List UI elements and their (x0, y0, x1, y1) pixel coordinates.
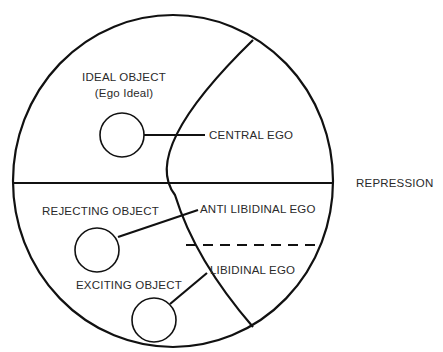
ideal-object-circle (100, 113, 144, 157)
exciting-object-label: EXCITING OBJECT (76, 279, 182, 291)
endopsychic-structure-diagram: IDEAL OBJECT (Ego Ideal) CENTRAL EGO REJ… (0, 0, 443, 352)
repression-label: REPRESSION (356, 177, 433, 189)
outer-psyche-circle (13, 15, 333, 347)
rejecting-object-label: REJECTING OBJECT (42, 205, 159, 217)
ideal-object-label: IDEAL OBJECT (82, 71, 166, 83)
exciting-object-circle (132, 298, 176, 342)
rejecting-object-circle (75, 228, 119, 272)
ego-ideal-sublabel: (Ego Ideal) (95, 87, 153, 99)
libidinal-ego-label: LIBIDINAL EGO (210, 264, 295, 276)
antilibidinal-ego-label: ANTI LIBIDINAL EGO (200, 203, 316, 215)
central-ego-label: CENTRAL EGO (209, 129, 293, 141)
